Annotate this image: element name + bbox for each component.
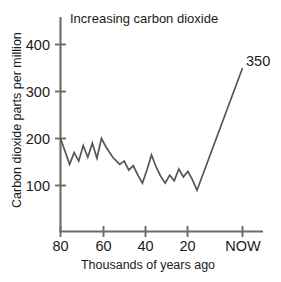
x-tick-label-40: 40 <box>137 238 153 254</box>
chart-plot-area: 400 300 200 100 80 60 40 20 NOW Increasi… <box>0 0 281 282</box>
x-tick-label-20: 20 <box>179 238 195 254</box>
annotation-350: 350 <box>246 53 270 69</box>
y-tick-label-300: 300 <box>26 84 50 100</box>
chart-figure: 400 300 200 100 80 60 40 20 NOW Increasi… <box>0 0 281 282</box>
x-tick-label-60: 60 <box>95 238 111 254</box>
data-series-line <box>61 68 243 190</box>
x-tick-label-80: 80 <box>52 238 68 254</box>
y-tick-label-100: 100 <box>26 178 50 194</box>
chart-title: Increasing carbon dioxide <box>70 11 218 26</box>
y-tick-label-200: 200 <box>26 131 50 147</box>
y-tick-label-400: 400 <box>26 37 50 53</box>
x-tick-label-now: NOW <box>225 238 261 254</box>
x-axis-title: Thousands of years ago <box>81 258 215 272</box>
y-axis-title: Carbon dioxide parts per million <box>10 32 24 208</box>
